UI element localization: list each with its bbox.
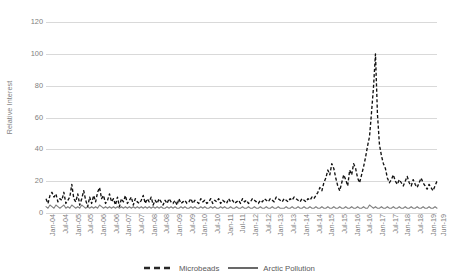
x-tick-label: Jul-18: [417, 214, 424, 234]
x-tick-label: Jul-15: [341, 214, 348, 234]
x-tick-label: Jul-07: [138, 214, 145, 234]
x-tick-label: Jul-08: [163, 214, 170, 234]
x-tick-label: Jan-06: [100, 214, 107, 236]
x-tick-label: Jun-19: [440, 214, 447, 236]
y-axis-tick-labels: 020406080100120: [20, 0, 46, 226]
x-tick-label: Jan-09: [176, 214, 183, 236]
legend-label-arctic-pollution: Arctic Pollution: [263, 264, 315, 273]
series-line-arctic-pollution: [46, 205, 437, 208]
x-tick-label: Jan-04: [49, 214, 56, 236]
x-tick-label: Jul-12: [265, 214, 272, 234]
x-tick-label: Jan-13: [277, 214, 284, 236]
y-tick-label: 60: [35, 114, 43, 121]
x-tick-label: Jan-15: [328, 214, 335, 236]
y-tick-label: 40: [35, 146, 43, 153]
y-tick-label: 0: [39, 209, 43, 216]
chart-legend: Microbeads Arctic Pollution: [0, 258, 459, 278]
x-tick-label: Jan-17: [379, 214, 386, 236]
x-axis-tick-labels: Jan-04Jul-04Jan-05Jul-05Jan-06Jul-06Jan-…: [46, 214, 437, 258]
x-tick-label: Jan-19: [430, 214, 437, 236]
x-tick-label: Jul-16: [366, 214, 373, 234]
y-tick-label: 80: [35, 82, 43, 89]
legend-swatch-solid-icon: [228, 264, 258, 272]
x-tick-label: Jan-10: [201, 214, 208, 236]
legend-entry-arctic-pollution: Arctic Pollution: [228, 264, 315, 273]
x-tick-label: Jan-14: [303, 214, 310, 236]
x-tick-label: Jan-11: [227, 214, 234, 235]
x-tick-label: Jan-05: [75, 214, 82, 236]
x-tick-label: Jul-10: [214, 214, 221, 234]
y-tick-label: 100: [31, 50, 43, 57]
x-tick-label: Jul-06: [113, 214, 120, 234]
x-tick-label: Jul-17: [392, 214, 399, 234]
legend-entry-microbeads: Microbeads: [144, 264, 219, 273]
x-tick-label: Jul-14: [316, 214, 323, 234]
y-axis-title-label: Relative Interest: [6, 81, 15, 135]
legend-swatch-dashed-icon: [144, 264, 174, 272]
x-tick-label: Jan-16: [354, 214, 361, 236]
x-tick-label: Jan-07: [125, 214, 132, 236]
plot-area: [46, 22, 437, 213]
y-tick-label: 20: [35, 177, 43, 184]
x-tick-label: Jul-05: [87, 214, 94, 234]
x-tick-label: Jul-11: [239, 214, 246, 233]
y-tick-label: 120: [31, 18, 43, 25]
relative-interest-line-chart: Relative Interest 020406080100120 Jan-04…: [0, 0, 459, 280]
x-tick-label: Jan-18: [404, 214, 411, 236]
legend-label-microbeads: Microbeads: [179, 264, 219, 273]
x-tick-label: Jan-12: [252, 214, 259, 236]
x-tick-label: Jul-09: [189, 214, 196, 234]
series-line-microbeads: [46, 54, 437, 207]
y-axis-title: Relative Interest: [0, 0, 20, 215]
x-tick-label: Jul-13: [290, 214, 297, 234]
x-tick-label: Jan-08: [151, 214, 158, 236]
series-canvas: [46, 22, 437, 213]
x-tick-label: Jul-04: [62, 214, 69, 234]
